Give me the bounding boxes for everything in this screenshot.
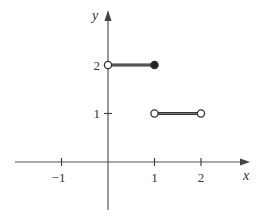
x-axis-arrow-icon: [240, 159, 250, 166]
x-axis-label: x: [242, 168, 250, 183]
y-axis-label: y: [90, 8, 99, 23]
y-tick-label: 2: [94, 58, 101, 73]
piecewise-plot: x y −11212: [0, 0, 263, 219]
open-endpoint: [151, 110, 158, 117]
x-tick-label: 2: [198, 170, 205, 185]
y-axis-arrow-icon: [105, 10, 112, 21]
closed-endpoint: [151, 61, 158, 68]
x-tick-label: 1: [151, 170, 158, 185]
ticks: −11212: [52, 58, 205, 186]
x-tick-label: −1: [52, 170, 66, 185]
y-tick-label: 1: [94, 106, 101, 121]
open-endpoint: [104, 61, 111, 68]
open-endpoint: [197, 110, 204, 117]
series: [104, 61, 204, 117]
axes: x y: [15, 8, 250, 210]
